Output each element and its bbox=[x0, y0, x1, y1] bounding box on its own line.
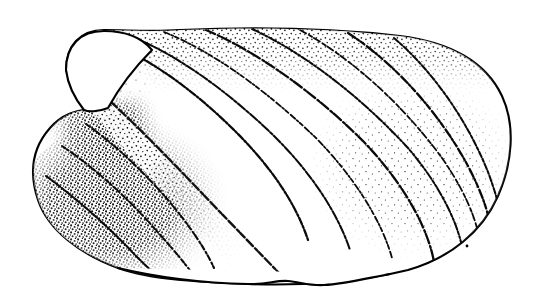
stray-ink-speck bbox=[466, 245, 469, 248]
bivalve-shell-illustration bbox=[0, 0, 539, 304]
figure-canvas: umbo beak notch dorsal margin posterior … bbox=[0, 0, 539, 304]
